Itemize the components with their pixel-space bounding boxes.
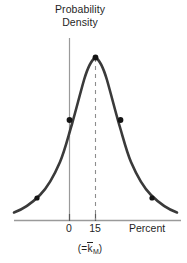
mean-annotation-symbol: k <box>87 243 93 254</box>
left-inflection-marker <box>67 117 73 123</box>
mean-annotation: (=kM) <box>55 243 125 255</box>
mean-annotation-suffix: ) <box>99 243 102 254</box>
x-tick-label-15: 15 <box>84 222 106 234</box>
x-tick-label-0: 0 <box>59 222 79 234</box>
left-tail-marker <box>34 195 39 200</box>
right-tail-marker <box>149 195 154 200</box>
mean-annotation-prefix: (= <box>78 243 87 254</box>
peak-marker <box>93 55 99 61</box>
x-axis-label: Percent <box>129 222 165 234</box>
right-inflection-marker <box>118 117 124 123</box>
